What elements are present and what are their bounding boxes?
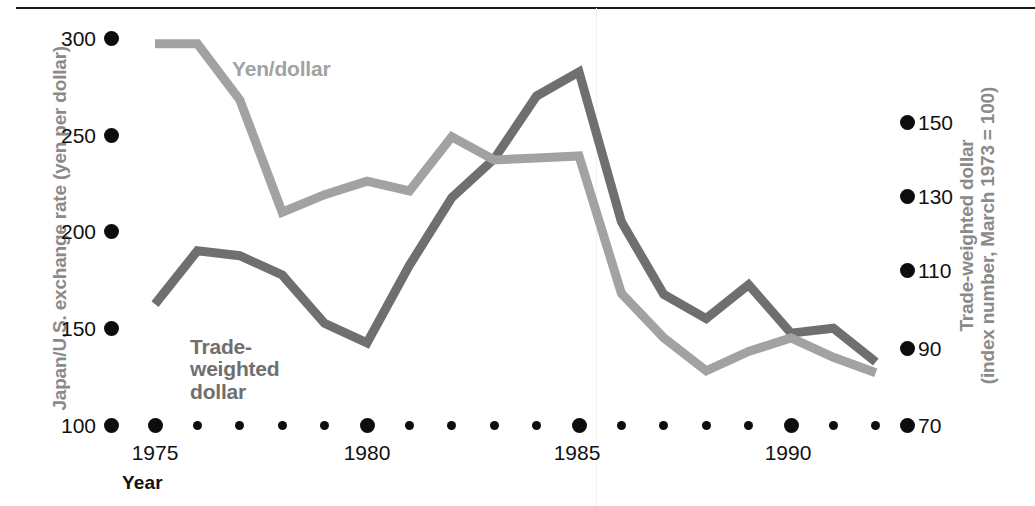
chart-figure: Japan/U.S. exchange rate (yen per dollar… bbox=[0, 0, 1035, 506]
plot-area bbox=[0, 0, 1035, 506]
series-line-trade-weighted-dollar bbox=[155, 72, 876, 362]
series-line-yen-dollar bbox=[155, 44, 876, 373]
